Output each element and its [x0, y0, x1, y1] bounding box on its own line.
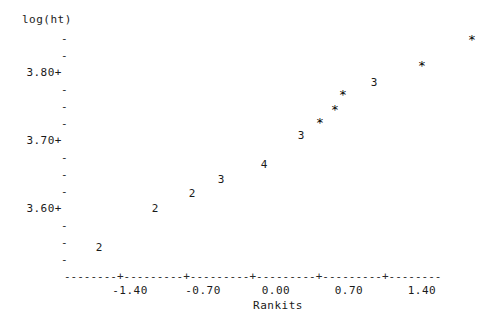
x-axis-label: 1.40 [392, 284, 452, 297]
x-axis-rule: --------+---------+---------+---------+-… [64, 270, 442, 283]
data-point-count: 4 [258, 159, 270, 170]
data-point-count: 2 [149, 203, 161, 214]
x-axis-label: 0.70 [319, 284, 379, 297]
y-axis-tick: - [61, 168, 71, 181]
data-point-count: 3 [368, 77, 380, 88]
character-plot-canvas: log(ht) 3.80+3.70+3.60+ ----------- ----… [0, 0, 503, 323]
data-point-star: * [314, 117, 326, 128]
data-point-count: 2 [93, 242, 105, 253]
x-axis-label: -0.70 [173, 284, 233, 297]
y-axis-tick: - [61, 49, 71, 62]
y-axis-tick: - [61, 100, 71, 113]
y-axis-tick: - [61, 219, 71, 232]
x-axis-label: 0.00 [246, 284, 306, 297]
data-point-count: 3 [215, 174, 227, 185]
data-point-star: * [329, 104, 341, 115]
data-point-star: * [337, 89, 349, 100]
y-axis-label: 3.70+ [16, 134, 62, 147]
y-axis-tick: - [61, 236, 71, 249]
y-axis-tick: - [61, 253, 71, 266]
x-axis-title: Rankits [238, 299, 318, 312]
x-axis-label: -1.40 [100, 284, 160, 297]
y-axis-tick: - [61, 83, 71, 96]
y-axis-label: 3.60+ [16, 202, 62, 215]
y-axis-tick: - [61, 117, 71, 130]
y-axis-tick: - [61, 185, 71, 198]
data-point-count: 2 [186, 188, 198, 199]
y-axis-tick: - [61, 32, 71, 45]
data-point-star: * [466, 34, 478, 45]
data-point-star: * [416, 60, 428, 71]
y-axis-tick: - [61, 151, 71, 164]
y-axis-label: 3.80+ [16, 66, 62, 79]
data-point-count: 3 [295, 130, 307, 141]
y-axis-title: log(ht) [22, 13, 72, 26]
